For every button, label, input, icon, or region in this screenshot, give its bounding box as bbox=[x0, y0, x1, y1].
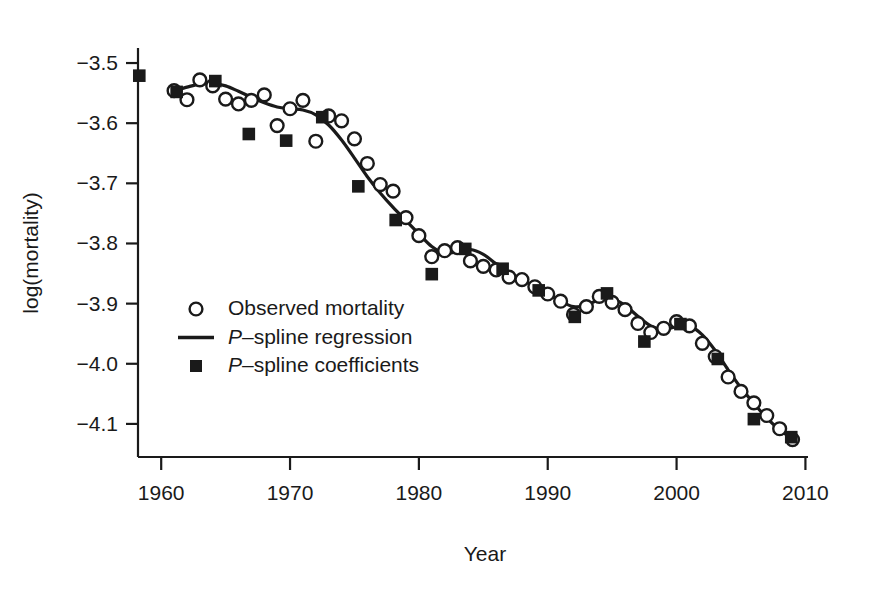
observed-point bbox=[374, 178, 387, 191]
observed-point bbox=[271, 119, 284, 132]
observed-point bbox=[335, 114, 348, 127]
chart-background bbox=[0, 0, 872, 595]
chart-figure: −3.5−3.6−3.7−3.8−3.9−4.0−4.1 19601970198… bbox=[0, 0, 872, 595]
observed-point bbox=[361, 157, 374, 170]
y-tick-label: −3.8 bbox=[77, 231, 118, 254]
observed-point bbox=[722, 371, 735, 384]
legend-label-text: –spline coefficients bbox=[242, 353, 419, 376]
coefficient-marker bbox=[425, 268, 438, 281]
observed-point bbox=[657, 322, 670, 335]
legend-label-italic-prefix: P bbox=[228, 325, 242, 348]
coefficient-marker bbox=[638, 335, 651, 348]
observed-point bbox=[348, 132, 361, 145]
observed-point bbox=[477, 260, 490, 273]
coefficient-marker bbox=[496, 262, 509, 275]
coefficient-marker bbox=[601, 287, 614, 300]
coefficient-marker bbox=[243, 128, 256, 141]
mortality-spline-chart: −3.5−3.6−3.7−3.8−3.9−4.0−4.1 19601970198… bbox=[0, 0, 872, 595]
observed-point bbox=[193, 73, 206, 86]
observed-point bbox=[464, 255, 477, 268]
coefficient-marker bbox=[532, 284, 545, 297]
observed-point bbox=[425, 250, 438, 263]
coefficient-marker bbox=[459, 243, 472, 256]
observed-point bbox=[284, 102, 297, 115]
coefficient-marker bbox=[748, 413, 761, 426]
observed-point bbox=[516, 273, 529, 286]
x-tick-label: 2000 bbox=[653, 481, 700, 504]
x-tick-label: 1990 bbox=[524, 481, 571, 504]
observed-point bbox=[554, 295, 567, 308]
y-tick-label: −3.6 bbox=[77, 111, 118, 134]
observed-point bbox=[747, 396, 760, 409]
observed-point bbox=[258, 89, 271, 102]
observed-point bbox=[219, 93, 232, 106]
observed-point bbox=[619, 303, 632, 316]
coefficient-marker bbox=[785, 431, 798, 444]
coefficient-marker bbox=[280, 134, 293, 147]
x-tick-label: 1960 bbox=[138, 481, 185, 504]
coefficient-marker bbox=[209, 75, 222, 88]
legend-label: Observed mortality bbox=[228, 296, 405, 319]
observed-point bbox=[773, 422, 786, 435]
legend-marker-observed bbox=[190, 303, 203, 316]
coefficient-marker bbox=[568, 311, 581, 324]
observed-point bbox=[735, 385, 748, 398]
observed-point bbox=[387, 185, 400, 198]
y-axis-title: log(mortality) bbox=[19, 192, 42, 313]
legend-label-text: Observed mortality bbox=[228, 296, 405, 319]
x-tick-label: 1980 bbox=[396, 481, 443, 504]
coefficient-marker bbox=[712, 353, 725, 366]
coefficient-marker bbox=[674, 318, 687, 331]
legend-label-italic-prefix: P bbox=[228, 353, 242, 376]
x-tick-label: 1970 bbox=[267, 481, 314, 504]
y-tick-label: −4.1 bbox=[77, 412, 118, 435]
observed-point bbox=[760, 409, 773, 422]
coefficient-marker bbox=[170, 86, 183, 99]
coefficient-marker bbox=[133, 69, 146, 82]
observed-point bbox=[696, 337, 709, 350]
y-tick-label: −4.0 bbox=[77, 352, 118, 375]
y-tick-label: −3.5 bbox=[77, 51, 118, 74]
x-tick-label: 2010 bbox=[782, 481, 829, 504]
legend-label: P–spline regression bbox=[228, 325, 412, 348]
legend-label: P–spline coefficients bbox=[228, 353, 419, 376]
observed-point bbox=[245, 94, 258, 107]
observed-point bbox=[309, 135, 322, 148]
y-tick-label: −3.9 bbox=[77, 292, 118, 315]
observed-point bbox=[438, 244, 451, 257]
coefficient-marker bbox=[352, 180, 365, 193]
observed-point bbox=[632, 317, 645, 330]
legend-marker-coefficients bbox=[190, 360, 202, 372]
observed-point bbox=[232, 98, 245, 111]
x-axis-title: Year bbox=[464, 542, 506, 565]
observed-point bbox=[297, 94, 310, 107]
observed-point bbox=[412, 229, 425, 242]
y-tick-label: −3.7 bbox=[77, 171, 118, 194]
coefficient-marker bbox=[316, 111, 329, 124]
observed-point bbox=[580, 300, 593, 313]
legend-label-text: –spline regression bbox=[242, 325, 412, 348]
coefficient-marker bbox=[389, 214, 402, 227]
